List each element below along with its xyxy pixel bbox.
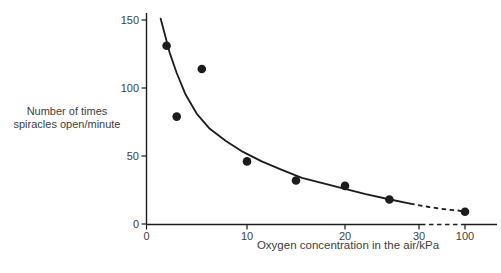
x-tick-label: 0 (143, 230, 149, 242)
data-point (243, 157, 252, 166)
data-point (198, 65, 207, 74)
y-tick-label: 50 (127, 150, 139, 162)
data-point (162, 42, 171, 51)
fit-curve-dashed (410, 204, 463, 212)
chart-figure: Number of times spiracles open/minute 05… (0, 0, 501, 273)
fit-curve-solid (161, 19, 411, 204)
x-tick-label: 100 (456, 230, 474, 242)
data-point (341, 182, 350, 191)
x-axis-label: Oxygen concentration in the air/kPa (240, 239, 456, 251)
data-point (385, 195, 394, 204)
chart-svg: 0501001500102030100 (0, 0, 501, 273)
data-point (172, 112, 181, 121)
data-point (292, 176, 301, 185)
y-tick-label: 100 (121, 82, 139, 94)
data-point (461, 208, 470, 217)
y-tick-label: 0 (133, 218, 139, 230)
y-tick-label: 150 (121, 14, 139, 26)
